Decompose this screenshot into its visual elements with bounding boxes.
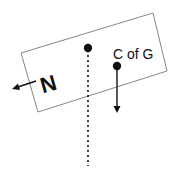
- pivot-point: [84, 44, 92, 52]
- normal-force-label: N: [37, 70, 59, 98]
- center-of-gravity-point: [113, 62, 121, 70]
- normal-arrow-shaft: [18, 81, 36, 87]
- tilted-block: [21, 13, 167, 112]
- center-of-gravity-label: C of G: [113, 46, 153, 62]
- force-diagram: N C of G: [0, 0, 176, 178]
- normal-arrow-head: [12, 84, 20, 91]
- weight-arrow-head: [114, 106, 121, 113]
